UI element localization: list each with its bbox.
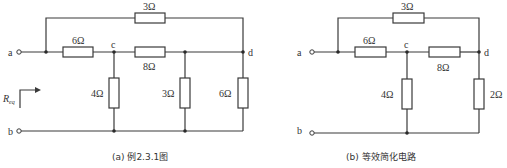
resistor-a-midb	[180, 78, 190, 108]
junction-dot	[183, 50, 187, 54]
label-terminal-a: a	[8, 47, 13, 58]
label-node-d: d	[484, 47, 489, 58]
junction-dot	[405, 131, 409, 135]
resistor-b-top	[393, 13, 424, 23]
label-a-db: 6Ω	[219, 88, 231, 99]
node-d-dot	[477, 50, 481, 54]
label-req: Req	[2, 93, 15, 105]
label-terminal-b: b	[8, 126, 13, 137]
label-node-d: d	[248, 47, 253, 58]
label-a-top: 3Ω	[143, 1, 155, 12]
label-b-top: 3Ω	[401, 1, 413, 12]
junction-dot	[44, 50, 48, 54]
resistor-b-db	[474, 79, 484, 109]
label-node-c: c	[111, 39, 116, 50]
label-a-cb: 4Ω	[91, 88, 103, 99]
circuit-b: a b c d 3Ω 6Ω 8Ω 4Ω 2Ω (b) 等效简化电路	[297, 1, 502, 162]
terminal-a	[310, 50, 314, 54]
circuit-figure: a b c d 3Ω 6Ω 8Ω 4Ω 3Ω 6Ω Req (a) 例2.3.1…	[0, 0, 507, 168]
caption-a: (a) 例2.3.1图	[112, 151, 168, 162]
resistor-b-cb	[402, 79, 412, 109]
label-b-cb: 4Ω	[381, 89, 393, 100]
terminal-b	[310, 131, 314, 135]
label-b-cd: 8Ω	[437, 62, 449, 73]
node-d-dot	[241, 50, 245, 54]
junction-dot	[183, 129, 187, 133]
req-arrow-line	[20, 90, 37, 108]
circuit-a: a b c d 3Ω 6Ω 8Ω 4Ω 3Ω 6Ω Req (a) 例2.3.1…	[2, 1, 253, 162]
label-a-ac: 6Ω	[72, 35, 84, 46]
caption-b: (b) 等效简化电路	[346, 151, 416, 162]
node-c-dot	[405, 50, 409, 54]
req-arrow-icon	[35, 87, 41, 93]
resistor-a-cd	[135, 47, 165, 57]
resistor-a-cb	[109, 78, 119, 108]
junction-dot	[336, 50, 340, 54]
label-a-midb: 3Ω	[162, 88, 174, 99]
node-c-dot	[112, 50, 116, 54]
label-b-ac: 6Ω	[363, 35, 375, 46]
resistor-a-db	[238, 78, 248, 108]
resistor-a-ac	[63, 47, 93, 57]
resistor-a-top	[135, 13, 165, 23]
wire-top-right	[165, 18, 243, 52]
label-node-c: c	[404, 39, 409, 50]
resistor-b-ac	[355, 47, 386, 57]
label-a-cd: 8Ω	[143, 61, 155, 72]
terminal-a	[17, 50, 21, 54]
terminal-b	[17, 129, 21, 133]
label-terminal-b: b	[297, 125, 302, 136]
label-terminal-a: a	[297, 47, 302, 58]
label-b-db: 2Ω	[490, 89, 502, 100]
junction-dot	[112, 129, 116, 133]
resistor-b-cd	[429, 47, 460, 57]
